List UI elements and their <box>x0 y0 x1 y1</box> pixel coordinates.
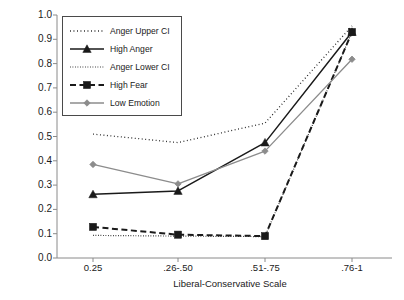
legend-label: High Fear <box>110 80 148 90</box>
x-axis-tick-label: 0.25 <box>84 262 103 273</box>
data-point-marker <box>261 233 268 240</box>
legend-item: Low Emotion <box>69 94 175 112</box>
x-axis-tick-label: .51-.75 <box>250 262 280 273</box>
legend-swatch <box>69 42 105 56</box>
plot-area <box>0 0 404 300</box>
legend-label: Anger Upper CI <box>110 26 170 36</box>
legend-item: High Fear <box>69 76 175 94</box>
legend-swatch <box>69 60 105 74</box>
chart-legend: Anger Upper CIHigh AngerAnger Lower CIHi… <box>62 16 182 116</box>
legend-label: Anger Lower CI <box>110 62 170 72</box>
legend-label: High Anger <box>110 44 153 54</box>
x-axis-tick-label: .26-.50 <box>163 262 193 273</box>
legend-swatch <box>69 96 105 110</box>
legend-item: Anger Upper CI <box>69 22 175 40</box>
legend-label: Low Emotion <box>110 98 160 108</box>
data-point-marker <box>175 181 181 187</box>
data-point-marker <box>89 223 96 230</box>
data-point-marker <box>174 231 181 238</box>
x-axis-tick-label: .76-1 <box>341 262 363 273</box>
legend-item: Anger Lower CI <box>69 58 175 76</box>
data-point-marker <box>348 28 355 35</box>
legend-item: High Anger <box>69 40 175 58</box>
legend-swatch <box>69 78 105 92</box>
chart-root: % Voted for the Senate Republican Candid… <box>0 0 404 300</box>
data-point-marker <box>90 161 96 167</box>
legend-swatch <box>69 24 105 38</box>
x-axis-title: Liberal-Conservative Scale <box>70 278 390 289</box>
